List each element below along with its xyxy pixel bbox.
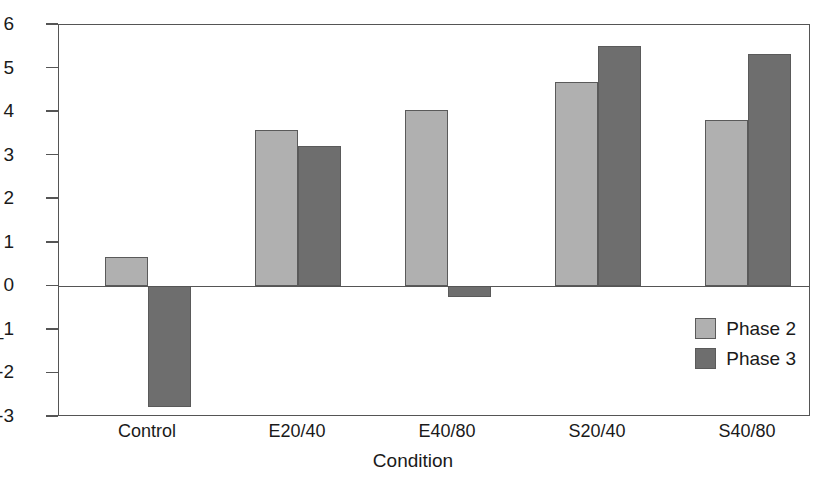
bar-s20-40-phase-3 (598, 46, 641, 286)
y-axis-tick (46, 197, 58, 199)
bar-e40-80-phase-2 (405, 110, 448, 286)
legend-swatch-phase-2 (695, 318, 716, 339)
y-axis-tick-label: 6 (3, 14, 14, 33)
bar-e20-40-phase-3 (298, 146, 341, 287)
x-axis-tick-label: S20/40 (568, 421, 625, 442)
legend-label-phase-3: Phase 3 (726, 349, 796, 368)
bar-s40-80-phase-3 (748, 54, 791, 286)
chart-legend: Phase 2 Phase 3 (695, 318, 796, 378)
y-axis-tick-label: 4 (3, 101, 14, 120)
y-axis-tick (46, 241, 58, 243)
y-axis: 6543210_1-2-3 (0, 0, 58, 481)
y-axis-tick-label: 3 (3, 145, 14, 164)
x-axis-tick-label: Control (118, 421, 176, 442)
y-axis-tick-label: 2 (3, 188, 14, 207)
legend-item-phase-3: Phase 3 (695, 348, 796, 369)
y-axis-tick (46, 154, 58, 156)
y-axis-tick (46, 67, 58, 69)
zero-baseline (59, 286, 809, 288)
x-axis-tick-label: E20/40 (268, 421, 325, 442)
bar-s20-40-phase-2 (555, 82, 598, 286)
x-axis-title: Condition (0, 450, 826, 472)
y-axis-tick (46, 372, 58, 374)
y-axis-tick (46, 23, 58, 25)
bar-chart-figure: 6543210_1-2-3 Condition Phase 2 Phase 3 … (0, 0, 826, 481)
bar-control-phase-2 (105, 257, 148, 287)
y-axis-tick (46, 110, 58, 112)
x-axis-tick-label: E40/80 (418, 421, 475, 442)
y-axis-tick-label: -3 (0, 406, 14, 425)
y-axis-tick-label: _1 (0, 319, 14, 338)
y-axis-tick-label: 5 (3, 58, 14, 77)
legend-swatch-phase-3 (695, 348, 716, 369)
legend-label-phase-2: Phase 2 (726, 319, 796, 338)
bar-s40-80-phase-2 (705, 120, 748, 287)
bar-e20-40-phase-2 (255, 130, 298, 287)
x-axis-tick-label: S40/80 (718, 421, 775, 442)
y-axis-tick (46, 285, 58, 287)
y-axis-tick-label: 1 (3, 232, 14, 251)
y-axis-tick-label: 0 (3, 275, 14, 294)
y-axis-tick (46, 328, 58, 330)
legend-item-phase-2: Phase 2 (695, 318, 796, 339)
y-axis-tick (46, 415, 58, 417)
y-axis-tick-label: -2 (0, 362, 14, 381)
bar-e40-80-phase-3 (448, 286, 491, 297)
bar-control-phase-3 (148, 286, 191, 407)
